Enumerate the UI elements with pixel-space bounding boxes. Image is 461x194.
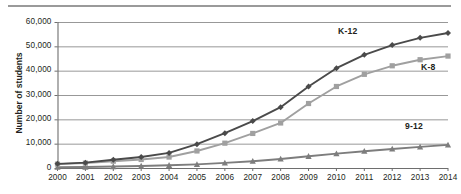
gridlines [58, 23, 449, 169]
data-point-marker [417, 35, 423, 41]
series-line [58, 56, 449, 164]
series-label-K12: K-12 [338, 26, 357, 36]
data-point-marker [362, 72, 367, 77]
series-label-K8: K-8 [421, 62, 435, 72]
data-point-marker [390, 63, 395, 68]
data-point-marker [194, 141, 200, 147]
series-K12 [55, 30, 452, 167]
series-912 [54, 142, 451, 170]
data-point-marker [222, 130, 228, 136]
data-point-marker [306, 101, 311, 106]
data-point-marker [361, 52, 367, 58]
data-point-marker [334, 84, 339, 89]
series-label-912: 9-12 [405, 121, 423, 131]
data-point-marker [445, 30, 451, 36]
y-axis-ticks [55, 23, 58, 169]
data-point-marker [194, 148, 199, 153]
data-point-marker [278, 120, 283, 125]
data-point-marker [445, 53, 450, 58]
chart-figure: Number of students 010,00020,00030,00040… [0, 0, 461, 194]
series-line [58, 145, 449, 167]
plot-area [0, 0, 461, 194]
data-point-marker [250, 131, 255, 136]
data-series [54, 30, 451, 170]
data-point-marker [222, 141, 227, 146]
